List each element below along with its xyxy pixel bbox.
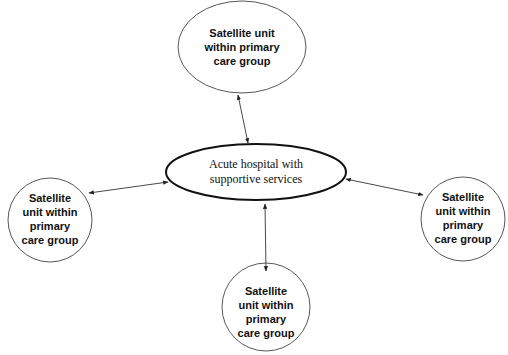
left-satellite-label: Satellite unit within primary care group	[5, 191, 95, 247]
label-line: supportive services	[186, 172, 326, 187]
label-line: Satellite	[418, 190, 508, 204]
edge-hub-bottom	[265, 204, 266, 271]
label-line: unit within	[418, 204, 508, 218]
edge-hub-top	[238, 95, 248, 143]
label-line: care group	[418, 232, 508, 246]
label-line: care group	[187, 54, 297, 68]
label-line: Acute hospital with	[186, 157, 326, 172]
label-line: care group	[5, 233, 95, 247]
edge-hub-right	[346, 179, 423, 195]
label-line: primary	[221, 312, 311, 326]
label-line: Satellite	[5, 191, 95, 205]
label-line: care group	[221, 326, 311, 340]
label-line: unit within	[221, 298, 311, 312]
hub-label: Acute hospital with supportive services	[186, 157, 326, 187]
diagram-canvas: Satellite unit within primary care group…	[0, 0, 508, 355]
edge-hub-left	[89, 182, 168, 193]
label-line: primary	[418, 218, 508, 232]
label-line: Satellite unit	[187, 26, 297, 40]
label-line: primary	[5, 219, 95, 233]
label-line: Satellite	[221, 284, 311, 298]
right-satellite-label: Satellite unit within primary care group	[418, 190, 508, 246]
label-line: within primary	[187, 40, 297, 54]
top-satellite-label: Satellite unit within primary care group	[187, 26, 297, 68]
bottom-satellite-label: Satellite unit within primary care group	[221, 284, 311, 340]
label-line: unit within	[5, 205, 95, 219]
